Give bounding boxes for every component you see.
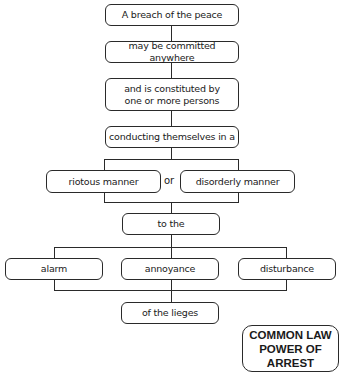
or-label: or [164, 175, 174, 186]
node-anywhere: may be committed anywhere [105, 41, 239, 63]
connector-breach-anywhere [171, 26, 172, 41]
node-constituted-label: and is constituted by one or more person… [124, 83, 220, 107]
node-to-the: to the [122, 213, 220, 235]
node-alarm: alarm [5, 258, 103, 280]
connector-manner-tothe [171, 202, 172, 213]
connector-conducting-branch [171, 148, 172, 159]
node-annoyance: annoyance [121, 258, 219, 280]
node-breach: A breach of the peace [105, 4, 239, 26]
node-disorderly-label: disorderly manner [196, 176, 280, 188]
connector-constituted-conducting [171, 111, 172, 126]
node-disturbance-label: disturbance [260, 263, 314, 275]
node-conducting: conducting themselves in a [105, 126, 239, 148]
node-breach-label: A breach of the peace [122, 9, 223, 21]
node-power-label: COMMON LAW POWER OF ARREST [249, 328, 331, 370]
node-constituted: and is constituted by one or more person… [105, 78, 239, 111]
effects-bracket-left-top [54, 247, 55, 258]
manner-bracket-top [104, 159, 239, 160]
node-to-the-label: to the [158, 218, 185, 230]
node-annoyance-label: annoyance [145, 263, 195, 275]
node-lieges-label: of the lieges [142, 307, 198, 319]
node-alarm-label: alarm [41, 263, 67, 275]
connector-anywhere-constituted [171, 63, 172, 78]
connector-effects-lieges [171, 280, 172, 302]
effects-bracket-right-top [286, 247, 287, 258]
node-disturbance: disturbance [238, 258, 336, 280]
node-riotous-label: riotous manner [69, 176, 139, 188]
node-lieges: of the lieges [121, 302, 219, 324]
node-conducting-label: conducting themselves in a [109, 131, 235, 143]
node-riotous: riotous manner [46, 170, 161, 193]
node-disorderly: disorderly manner [180, 170, 295, 193]
node-anywhere-label: may be committed anywhere [106, 40, 238, 64]
effects-bracket-top [54, 247, 287, 248]
node-common-law-power-of-arrest: COMMON LAW POWER OF ARREST [242, 325, 339, 372]
